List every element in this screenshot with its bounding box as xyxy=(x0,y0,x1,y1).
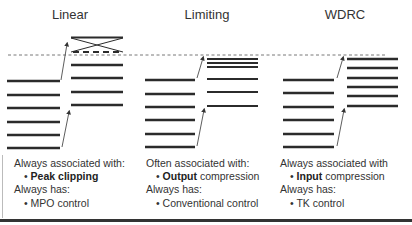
limiting-description: Often associated with: • Output compress… xyxy=(146,157,259,210)
limiting-input-lines xyxy=(145,80,195,147)
limiting-has-text: Conventional control xyxy=(163,197,259,209)
limiting-has-label: Always has: xyxy=(146,183,259,196)
limiting-assoc-label: Often associated with: xyxy=(146,157,259,170)
wdrc-assoc-item: • Input compression xyxy=(280,170,388,183)
bullet: • xyxy=(290,197,294,209)
limiting-output-lines xyxy=(207,59,258,106)
linear-arrow-bottom xyxy=(62,112,69,147)
linear-input-lines xyxy=(7,81,60,148)
wdrc-assoc-rest: compression xyxy=(322,170,384,182)
wdrc-arrow-bottom xyxy=(337,110,344,146)
limiting-assoc-rest: compression xyxy=(197,170,259,182)
linear-assoc-item: • Peak clipping xyxy=(14,170,125,183)
limiting-assoc-bold: Output xyxy=(163,170,197,182)
limiting-has-item: • Conventional control xyxy=(146,197,259,210)
linear-has-text: MPO control xyxy=(31,197,89,209)
linear-assoc-label: Always associated with: xyxy=(14,157,125,170)
linear-has-label: Always has: xyxy=(14,183,125,196)
bottom-rule xyxy=(0,219,412,222)
bullet: • xyxy=(24,197,28,209)
limiting-arrow-top xyxy=(197,58,203,78)
wdrc-arrow-top xyxy=(337,58,343,78)
wdrc-has-label: Always has: xyxy=(280,183,388,196)
linear-arrow-top xyxy=(61,44,67,80)
wdrc-has-text: TK control xyxy=(296,197,344,209)
compression-diagram xyxy=(0,0,412,160)
wdrc-output-lines xyxy=(347,59,398,106)
bullet: • xyxy=(24,170,28,182)
wdrc-assoc-bold: Input xyxy=(297,170,323,182)
linear-description: Always associated with: • Peak clipping … xyxy=(14,157,125,210)
wdrc-description: Always associated with • Input compressi… xyxy=(280,157,388,210)
bullet: • xyxy=(156,170,160,182)
frame-left-border xyxy=(2,155,3,218)
limiting-assoc-item: • Output compression xyxy=(146,170,259,183)
linear-has-item: • MPO control xyxy=(14,197,125,210)
wdrc-input-lines xyxy=(283,80,334,147)
wdrc-has-item: • TK control xyxy=(280,197,388,210)
peak-clipping-cross-icon xyxy=(71,38,123,53)
bullet: • xyxy=(156,197,160,209)
linear-assoc-bold: Peak clipping xyxy=(31,170,99,182)
linear-output-lines xyxy=(71,65,123,105)
wdrc-assoc-label: Always associated with xyxy=(280,157,388,170)
limiting-arrow-bottom xyxy=(197,110,204,146)
bullet: • xyxy=(290,170,294,182)
